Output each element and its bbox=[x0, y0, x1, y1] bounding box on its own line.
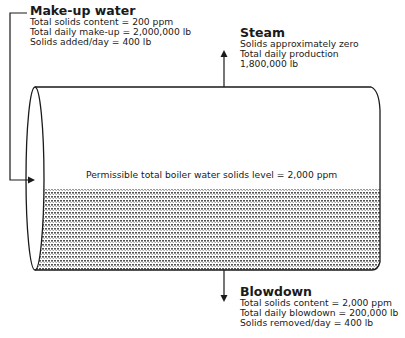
blowdown-solids-removed: Solids removed/day = 400 lb bbox=[240, 318, 398, 328]
boiler-water bbox=[36, 189, 380, 270]
makeup-solids-added: Solids added/day = 400 lb bbox=[30, 37, 191, 47]
solids-level-label: Permissible total boiler water solids le… bbox=[86, 169, 337, 180]
blowdown-arrow bbox=[221, 270, 228, 302]
blowdown-info: Blowdown Total solids content = 2,000 pp… bbox=[240, 285, 398, 328]
steam-arrow bbox=[221, 50, 228, 87]
steam-production-value: 1,800,000 lb bbox=[240, 59, 359, 69]
steam-info: Steam Solids approximately zero Total da… bbox=[240, 26, 359, 69]
makeup-water-info: Make-up water Total solids content = 200… bbox=[30, 4, 191, 47]
